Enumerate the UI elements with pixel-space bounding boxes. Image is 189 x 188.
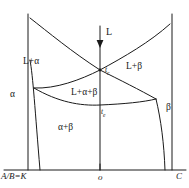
region-label-liquid-plus-beta: L+β (126, 62, 142, 72)
eutectic-point-marker (99, 69, 102, 72)
liquidus-alpha-curve (30, 18, 100, 70)
axis-label-left: A/B=K (1, 172, 27, 181)
axis-label-right: C (176, 172, 182, 181)
region-label-alpha-plus-beta: α+β (58, 123, 73, 133)
region-label-alpha: α (10, 90, 15, 100)
region-label-liquid-plus-alpha-plus-beta: L+α+β (71, 88, 97, 98)
lower-temperature-label: te (101, 108, 106, 118)
eutectic-temp-subscript: c (107, 70, 109, 76)
region-label-liquid-plus-alpha: L+α (23, 57, 39, 67)
solvus-right-curve (156, 99, 165, 170)
solvus-left-curve (30, 60, 40, 170)
region-label-beta: β (166, 103, 171, 113)
axis-label-center: o (98, 173, 103, 182)
lower-temp-subscript: e (103, 112, 105, 118)
down-arrow-icon (97, 40, 104, 48)
phase-diagram-container: L+α L+β L+α+β α+β α β L tc te A/B=K o C (0, 0, 189, 188)
liquid-annotation-label: L (106, 27, 112, 37)
eutectic-temperature-label: tc (105, 66, 110, 76)
solidus-alpha-curve (34, 70, 100, 88)
